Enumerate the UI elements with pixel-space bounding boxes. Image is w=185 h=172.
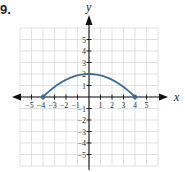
endpoint-dot [133, 95, 137, 99]
y-tick-label: 3 [82, 59, 86, 68]
y-tick-label: −1 [77, 105, 86, 114]
y-axis-up-arrow-icon [86, 15, 93, 25]
x-tick-label: 2 [110, 101, 114, 110]
y-tick-label: 4 [82, 47, 86, 56]
x-tick-label: 3 [122, 101, 126, 110]
y-tick-label: −3 [77, 128, 86, 137]
x-tick-label: −5 [25, 101, 34, 110]
x-tick-label: 5 [145, 101, 149, 110]
x-axis-label: x [173, 90, 180, 104]
y-axis-label: y [85, 0, 92, 14]
endpoint-dot [41, 95, 45, 99]
x-tick-label: 1 [99, 101, 103, 110]
x-tick-label: −2 [60, 101, 69, 110]
x-tick-label: −3 [48, 101, 57, 110]
y-tick-label: −4 [77, 139, 86, 148]
graph: xy−5−4−3−2−112345−5−4−3−2−112345 [0, 0, 185, 172]
y-tick-label: −2 [77, 116, 86, 125]
y-tick-label: −5 [77, 151, 86, 160]
x-axis-right-arrow-icon [159, 94, 168, 101]
y-tick-label: 1 [82, 82, 86, 91]
y-tick-label: 5 [82, 36, 86, 45]
x-tick-label: −4 [37, 101, 46, 110]
x-axis-left-arrow-icon [12, 94, 21, 101]
x-tick-label: 4 [133, 101, 137, 110]
